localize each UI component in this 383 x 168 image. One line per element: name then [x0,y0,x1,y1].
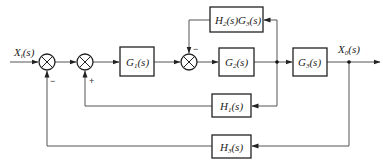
block-g3: G3(s) [293,48,327,76]
block-h2g3: H2(s)G3(s) [210,7,263,32]
svg-text:G2(s): G2(s) [225,56,248,70]
block-g2: G2(s) [219,48,254,76]
sum2-feedback-sign: + [89,76,94,86]
block-g1: G1(s) [120,47,154,76]
block-h3: H3(s) [212,135,251,158]
sum3-feedback-sign: − [193,44,198,54]
sum1-feedback-sign: − [50,76,55,86]
branch-point-output [347,60,351,64]
svg-text:H2(s)G3(s): H2(s)G3(s) [214,14,261,28]
summing-junction-3 [181,54,197,70]
branch-point-g2-output [275,60,279,64]
svg-text:G3(s): G3(s) [298,56,321,70]
svg-text:G1(s): G1(s) [126,56,149,70]
summing-junction-2 [77,54,93,70]
output-label: X0(s) [337,43,360,57]
block-diagram: − + − G1(s) G2(s) G3(s) H2(s)G3(s) H1(s)… [0,0,383,168]
svg-text:H1(s): H1(s) [219,100,243,114]
block-h1: H1(s) [212,94,251,117]
input-label: Xi(s) [13,46,35,60]
summing-junction-1 [39,54,55,70]
svg-text:H3(s): H3(s) [219,141,243,155]
